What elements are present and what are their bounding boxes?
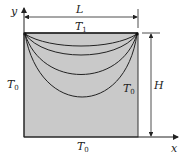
- plate-diagram: y x L H T1 T0 T0 T0: [0, 0, 185, 157]
- y-axis-label: y: [10, 5, 18, 18]
- plate: [24, 33, 138, 137]
- bottom-temp-label: T0: [77, 140, 89, 154]
- corner-dot-right: [135, 32, 138, 35]
- x-axis-label: x: [171, 142, 178, 155]
- left-temp-label: T0: [7, 78, 19, 92]
- top-temp-label: T1: [75, 20, 87, 34]
- height-label: H: [153, 79, 164, 92]
- width-label: L: [75, 3, 83, 16]
